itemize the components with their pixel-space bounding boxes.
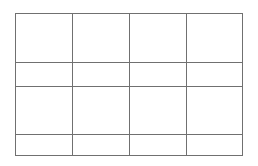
grid-cell (16, 135, 73, 156)
grid-cell (73, 14, 130, 63)
grid-cell (130, 14, 187, 63)
grid-cell (16, 87, 73, 135)
grid-cell (187, 87, 243, 135)
grid-cell (73, 135, 130, 156)
grid-row (16, 87, 243, 135)
empty-grid-table (15, 13, 243, 156)
grid-row (16, 63, 243, 87)
grid-cell (73, 87, 130, 135)
grid-cell (130, 87, 187, 135)
grid-row (16, 135, 243, 156)
grid-cell (16, 14, 73, 63)
grid-cell (130, 135, 187, 156)
grid-cell (187, 14, 243, 63)
grid-cell (187, 63, 243, 87)
grid-cell (73, 63, 130, 87)
grid-cell (187, 135, 243, 156)
grid-row (16, 14, 243, 63)
grid-cell (130, 63, 187, 87)
grid-cell (16, 63, 73, 87)
